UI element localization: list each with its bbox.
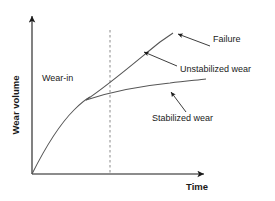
stabilized-wear-curve	[86, 79, 206, 100]
unstabilized-wear-curve	[86, 33, 173, 100]
failure-leader-line	[178, 34, 210, 46]
axis-group	[32, 16, 204, 174]
annotation-label-stabilized-wear: Stabilized wear	[152, 113, 213, 123]
wear-in-curve	[32, 97, 90, 174]
y-axis-label: Wear volume	[10, 76, 21, 135]
stabilized-wear-leader-line	[171, 92, 186, 112]
unstabilized-wear-leader-line	[144, 52, 177, 66]
wear-volume-diagram: Wear volume Time Wear-in Failure Unstabi…	[0, 0, 275, 201]
x-axis-label: Time	[186, 181, 208, 192]
annotation-label-unstabilized-wear: Unstabilized wear	[180, 64, 251, 74]
annotation-label-failure: Failure	[213, 34, 241, 44]
diagram-canvas: Wear volume Time Wear-in Failure Unstabi…	[0, 0, 275, 201]
annotation-label-wear-in: Wear-in	[42, 73, 73, 83]
